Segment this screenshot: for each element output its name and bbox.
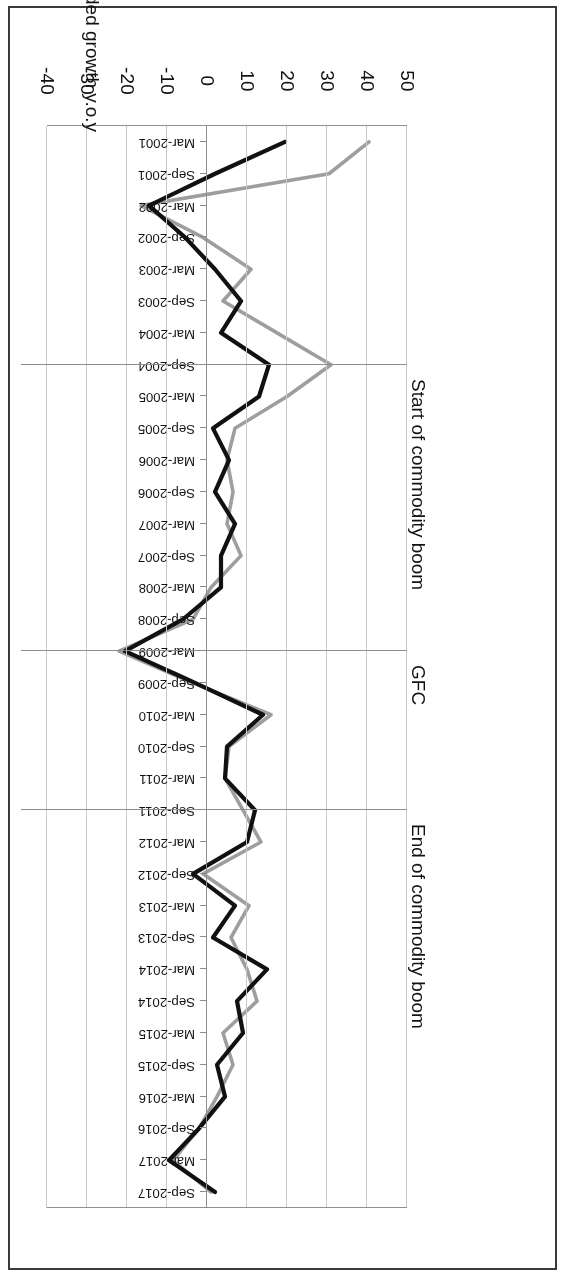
category-tick-label: Mar-2008: [139, 581, 195, 596]
category-tick-mark: [200, 205, 206, 206]
y-tick-label: 0: [196, 58, 218, 104]
y-tick-label: 10: [236, 58, 258, 104]
y-tick-label: 40: [356, 58, 378, 104]
category-tick-mark: [200, 968, 206, 969]
category-tick-label: Mar-2014: [139, 963, 195, 978]
y-tick-label: 30: [316, 58, 338, 104]
category-tick-label: Sep-2010: [138, 741, 195, 756]
category-tick-mark: [200, 777, 206, 778]
category-tick-label: Sep-2006: [138, 486, 195, 501]
category-tick-label: Mar-2005: [139, 391, 195, 406]
category-tick-mark: [200, 714, 206, 715]
category-tick-mark: [200, 873, 206, 874]
gridline-10: [246, 126, 247, 1208]
category-tick-label: Mar-2015: [139, 1027, 195, 1042]
category-tick-label: Sep-2004: [138, 359, 195, 374]
category-tick-label: Mar-2017: [139, 1154, 195, 1169]
category-tick-label: Sep-2009: [138, 677, 195, 692]
category-tick-label: Mar-2010: [139, 709, 195, 724]
category-tick-mark: [200, 1159, 206, 1160]
annotation-marker-line: [21, 809, 407, 810]
category-tick-mark: [200, 586, 206, 587]
category-tick-mark: [200, 1000, 206, 1001]
category-tick-label: Sep-2017: [138, 1186, 195, 1201]
gridline-20: [286, 126, 287, 1208]
category-tick-label: Mar-2012: [139, 836, 195, 851]
category-tick-label: Sep-2002: [138, 231, 195, 246]
category-tick-label: Sep-2012: [138, 868, 195, 883]
plot-area: [47, 126, 407, 1208]
category-tick-mark: [200, 1096, 206, 1097]
category-tick-mark: [200, 491, 206, 492]
category-tick-mark: [200, 396, 206, 397]
gridline-30: [326, 126, 327, 1208]
category-tick-mark: [200, 1127, 206, 1128]
category-tick-mark: [200, 1032, 206, 1033]
category-tick-mark: [200, 332, 206, 333]
category-tick-label: Sep-2013: [138, 932, 195, 947]
category-tick-mark: [200, 841, 206, 842]
category-tick-label: Mar-2009: [139, 645, 195, 660]
category-tick-mark: [200, 746, 206, 747]
category-tick-mark: [200, 268, 206, 269]
category-tick-label: Mar-2013: [139, 900, 195, 915]
gridline--30: [86, 126, 87, 1208]
annotation-label: Start of commodity boom: [407, 379, 429, 590]
category-tick-mark: [200, 937, 206, 938]
category-tick-label: Mar-2011: [140, 772, 195, 787]
category-axis-line: [206, 126, 207, 1208]
category-tick-label: Mar-2001: [139, 136, 195, 151]
gridline--40: [46, 126, 47, 1208]
chart-figure: 50403020100-10-20-30-40 Mar-2001Sep-2001…: [8, 6, 557, 1270]
y-tick-label: -40: [36, 58, 58, 104]
annotation-marker-line: [21, 650, 407, 651]
gridline--20: [126, 126, 127, 1208]
category-tick-mark: [200, 427, 206, 428]
series-canvas: [47, 126, 407, 1208]
category-tick-label: Mar-2016: [139, 1091, 195, 1106]
annotation-label: End of commodity boom: [407, 824, 429, 1029]
category-tick-mark: [200, 236, 206, 237]
category-tick-mark: [200, 618, 206, 619]
gridline--10: [166, 126, 167, 1208]
annotation-marker-line: [21, 364, 407, 365]
gridline-40: [366, 126, 367, 1208]
rotated-figure-wrapper: 50403020100-10-20-30-40 Mar-2001Sep-2001…: [8, 6, 557, 1270]
category-tick-mark: [200, 300, 206, 301]
category-tick-label: Mar-2003: [139, 263, 195, 278]
category-tick-mark: [200, 682, 206, 683]
plot-frame-top: [47, 1207, 407, 1208]
category-tick-label: Sep-2011: [139, 804, 195, 819]
category-tick-mark: [200, 905, 206, 906]
y-axis-title: % real value-added growth y.o.y: [81, 0, 103, 132]
category-tick-label: Sep-2016: [138, 1122, 195, 1137]
category-tick-mark: [200, 459, 206, 460]
category-tick-label: Sep-2005: [138, 422, 195, 437]
scanned-page: 50403020100-10-20-30-40 Mar-2001Sep-2001…: [0, 0, 565, 1277]
category-tick-mark: [200, 1191, 206, 1192]
category-tick-label: Mar-2002: [139, 200, 195, 215]
category-tick-label: Sep-2003: [138, 295, 195, 310]
category-tick-label: Sep-2007: [138, 550, 195, 565]
category-tick-label: Mar-2006: [139, 454, 195, 469]
category-tick-label: Sep-2008: [138, 613, 195, 628]
category-tick-mark: [200, 1064, 206, 1065]
y-tick-label: 50: [396, 58, 418, 104]
y-tick-label: -10: [156, 58, 178, 104]
y-tick-label: 20: [276, 58, 298, 104]
y-tick-label: -20: [116, 58, 138, 104]
category-tick-label: Sep-2015: [138, 1059, 195, 1074]
category-tick-mark: [200, 555, 206, 556]
category-tick-mark: [200, 141, 206, 142]
annotation-label: GFC: [407, 665, 429, 705]
category-tick-label: Sep-2001: [138, 168, 195, 183]
category-tick-label: Mar-2007: [139, 518, 195, 533]
category-tick-label: Sep-2014: [138, 995, 195, 1010]
category-tick-mark: [200, 173, 206, 174]
category-tick-mark: [200, 523, 206, 524]
category-tick-label: Mar-2004: [139, 327, 195, 342]
